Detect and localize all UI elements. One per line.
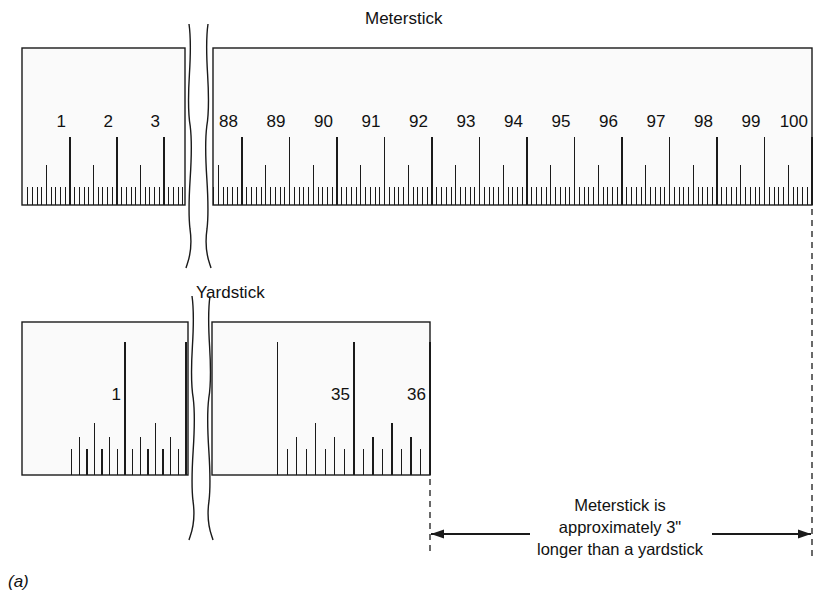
yardstick-title: Yardstick [196, 284, 265, 301]
meterstick-label-100: 100 [764, 113, 808, 130]
yardstick-label-36: 36 [382, 386, 426, 403]
caption-line-2: approximately 3" [495, 517, 745, 539]
meterstick-label-94: 94 [479, 113, 523, 130]
figure-diagram: Meterstick Yardstick (a) Meterstick is a… [0, 0, 836, 613]
meterstick-label-89: 89 [242, 113, 286, 130]
dimension-arrow-right-head [798, 530, 811, 539]
meterstick-label-98: 98 [669, 113, 713, 130]
yardstick-label-35: 35 [306, 386, 350, 403]
meterstick-label-90: 90 [289, 113, 333, 130]
meterstick-label-99: 99 [717, 113, 761, 130]
caption-line-1: Meterstick is [495, 495, 745, 517]
meterstick-label-88: 88 [194, 113, 238, 130]
meterstick-break-left [186, 24, 191, 268]
figure-label: (a) [8, 573, 29, 590]
yardstick-label-1: 1 [77, 386, 121, 403]
meterstick-label-91: 91 [337, 113, 381, 130]
yardstick-break-left [189, 296, 194, 540]
meterstick-label-92: 92 [384, 113, 428, 130]
dimension-caption: Meterstick is approximately 3" longer th… [495, 495, 745, 560]
dimension-arrow-left-head [431, 530, 444, 539]
meterstick-label-96: 96 [574, 113, 618, 130]
meterstick-label-95: 95 [527, 113, 571, 130]
meterstick-title: Meterstick [365, 10, 442, 27]
caption-line-3: longer than a yardstick [495, 539, 745, 561]
meterstick-label-3: 3 [116, 113, 160, 130]
meterstick-label-2: 2 [69, 113, 113, 130]
meterstick-label-1: 1 [22, 113, 66, 130]
meterstick-label-97: 97 [622, 113, 666, 130]
meterstick-break-right [206, 24, 211, 268]
meterstick-label-93: 93 [432, 113, 476, 130]
